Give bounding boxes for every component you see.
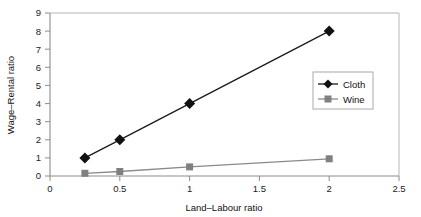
y-tick-label-1: 1 [36,152,41,163]
y-tick-label-4: 4 [36,98,41,109]
x-tick-label-3: 1.5 [253,183,266,194]
y-tick-label-9: 9 [36,7,41,18]
legend: Cloth Wine [313,72,373,109]
y-tick-label-5: 5 [36,80,41,91]
y-axis-title: Wage–Rental ratio [5,56,16,134]
x-tick-label-4: 2 [327,183,332,194]
y-tick-label-7: 7 [36,44,41,55]
legend-label-cloth: Cloth [343,79,365,90]
x-tick-label-1: 0.5 [113,183,126,194]
y-tick-label-8: 8 [36,26,41,37]
x-axis-title: Land–Labour ratio [185,202,262,213]
x-tick-label-2: 1 [187,183,192,194]
y-tick-label-0: 0 [36,170,41,181]
wine-marker-0 [81,170,88,177]
x-tick-label-0: 0 [47,183,52,194]
y-tick-label-3: 3 [36,116,41,127]
wine-marker-3 [326,155,333,162]
chart-container: 0 1 2 3 4 5 6 7 8 9 Wage–Rental ratio [0,0,421,217]
legend-wine-square-icon [325,96,332,103]
x-tick-label-5: 2.5 [392,183,405,194]
legend-label-wine: Wine [343,94,365,105]
line-chart: 0 1 2 3 4 5 6 7 8 9 Wage–Rental ratio [0,0,421,217]
y-tick-label-6: 6 [36,62,41,73]
wine-marker-2 [186,163,193,170]
wine-marker-1 [116,168,123,175]
y-tick-label-2: 2 [36,134,41,145]
